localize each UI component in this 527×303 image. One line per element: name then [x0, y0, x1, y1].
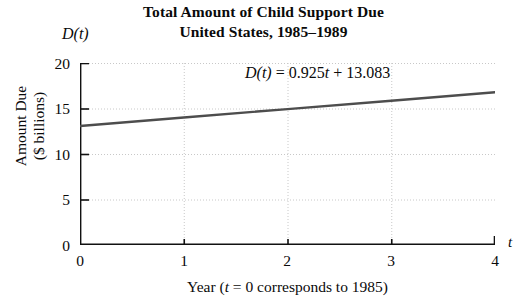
x-axis-caption: Year (t = 0 corresponds to 1985) [80, 278, 495, 296]
x-tick-label-0: 0 [65, 253, 95, 269]
x-axis-caption-suffix: = 0 corresponds to 1985) [229, 278, 388, 295]
x-tick-label-2: 2 [272, 253, 302, 269]
chart-title-line-1: Total Amount of Child Support Due [143, 3, 384, 20]
x-axis-caption-prefix: Year ( [187, 278, 225, 295]
y-tick-label-20: 20 [36, 56, 70, 72]
x-tick-label-1: 1 [169, 253, 199, 269]
y-axis-title-line-2: ($ billions) [30, 51, 48, 201]
plot-svg [80, 63, 495, 245]
gridlines [80, 63, 495, 245]
x-axis-symbol-label: t [508, 234, 512, 251]
x-tick-label-4: 4 [480, 253, 510, 269]
y-axis-symbol-label: D(t) [62, 25, 89, 43]
y-tick-label-0: 0 [36, 238, 70, 254]
plot-area [80, 63, 495, 245]
y-axis-title-line-1: Amount Due [12, 86, 29, 167]
y-tick-label-15: 15 [36, 101, 70, 117]
y-axis-title: Amount Due ($ billions) [12, 51, 48, 201]
y-tick-label-10: 10 [36, 147, 70, 163]
x-tick-label-3: 3 [376, 253, 406, 269]
chart-figure: Total Amount of Child Support Due United… [0, 0, 527, 303]
y-tick-label-5: 5 [36, 192, 70, 208]
